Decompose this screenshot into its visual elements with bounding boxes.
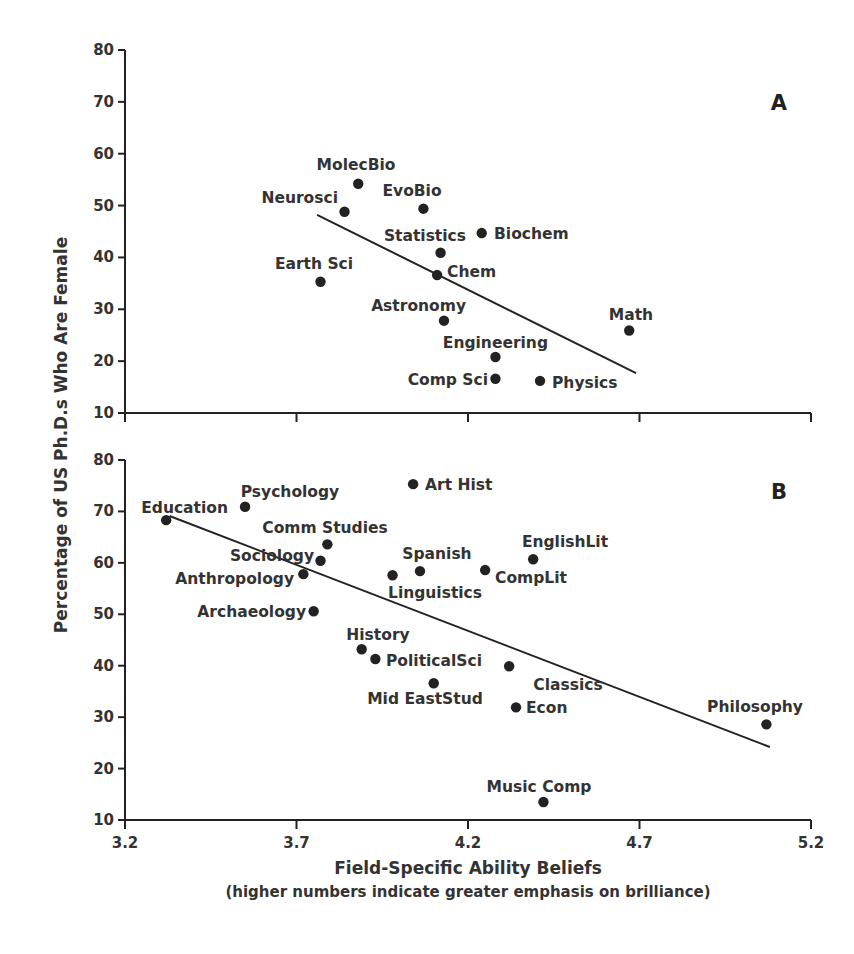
data-point	[370, 654, 380, 664]
y-tick-label: 10	[93, 404, 114, 422]
point-label: PoliticalSci	[386, 652, 482, 670]
y-tick-label: 60	[93, 554, 114, 572]
data-point	[490, 352, 500, 362]
data-point	[624, 325, 634, 335]
point-label: CompLit	[495, 569, 567, 587]
data-point	[353, 179, 363, 189]
x-tick-label: 5.2	[798, 834, 825, 852]
point-label: Archaeology	[197, 603, 306, 621]
data-point	[339, 207, 349, 217]
data-point	[477, 228, 487, 238]
point-label: Classics	[533, 676, 602, 694]
x-axis-subtitle: (higher numbers indicate greater emphasi…	[225, 883, 710, 901]
point-label: Music Comp	[487, 778, 592, 796]
data-point	[418, 203, 428, 213]
data-point	[538, 797, 548, 807]
data-point	[429, 678, 439, 688]
point-label: Comp Sci	[408, 371, 488, 389]
point-label: EnglishLit	[522, 533, 609, 551]
point-label: Comm Studies	[262, 519, 387, 537]
y-tick-label: 70	[93, 502, 114, 520]
data-point	[439, 315, 449, 325]
data-point	[535, 376, 545, 386]
x-tick-label: 4.2	[455, 834, 482, 852]
y-tick-label: 40	[93, 657, 114, 675]
data-point	[408, 479, 418, 489]
point-label: Anthropology	[175, 570, 294, 588]
y-tick-label: 20	[93, 760, 114, 778]
point-label: Biochem	[494, 225, 569, 243]
point-label: Physics	[552, 374, 617, 392]
data-point	[480, 565, 490, 575]
data-point	[490, 374, 500, 384]
point-label: Mid EastStud	[367, 690, 483, 708]
y-axis-title: Percentage of US Ph.D.s Who Are Female	[51, 237, 71, 633]
point-label: Education	[141, 499, 228, 517]
y-tick-label: 10	[93, 811, 114, 829]
point-label: Math	[609, 306, 653, 324]
y-tick-label: 30	[93, 300, 114, 318]
x-tick-label: 4.7	[626, 834, 653, 852]
point-label: Spanish	[402, 545, 471, 563]
data-point	[528, 554, 538, 564]
point-label: Neurosci	[261, 189, 338, 207]
y-tick-label: 30	[93, 708, 114, 726]
y-tick-label: 70	[93, 93, 114, 111]
point-label: Engineering	[443, 334, 548, 352]
point-label: Astronomy	[371, 297, 466, 315]
y-tick-label: 50	[93, 605, 114, 623]
scatter-chart-figure: 1020304050607080MolecBioNeurosciEvoBioBi…	[0, 0, 854, 954]
y-tick-label: 40	[93, 248, 114, 266]
point-label: MolecBio	[317, 156, 396, 174]
data-point	[240, 502, 250, 512]
y-tick-label: 80	[93, 41, 114, 59]
point-label: History	[346, 626, 409, 644]
panel-letter: A	[771, 91, 788, 115]
data-point	[435, 248, 445, 258]
point-label: Psychology	[241, 483, 339, 501]
data-point	[761, 719, 771, 729]
point-label: Econ	[526, 699, 567, 717]
data-point	[322, 539, 332, 549]
data-point	[511, 702, 521, 712]
point-label: Chem	[447, 263, 496, 281]
data-point	[315, 277, 325, 287]
data-point	[415, 566, 425, 576]
y-tick-label: 80	[93, 451, 114, 469]
point-label: EvoBio	[382, 182, 441, 200]
point-label: Statistics	[384, 227, 466, 245]
point-label: Art Hist	[425, 476, 493, 494]
data-point	[504, 661, 514, 671]
y-tick-label: 60	[93, 145, 114, 163]
data-point	[298, 569, 308, 579]
data-point	[387, 570, 397, 580]
point-label: Earth Sci	[275, 255, 353, 273]
data-point	[432, 270, 442, 280]
x-tick-label: 3.7	[283, 834, 310, 852]
panel-b: 10203040506070803.23.74.24.75.2Art HistP…	[93, 451, 824, 852]
point-label: Linguistics	[388, 584, 482, 602]
point-label: Philosophy	[707, 698, 803, 716]
y-tick-label: 50	[93, 197, 114, 215]
data-point	[356, 644, 366, 654]
x-tick-label: 3.2	[112, 834, 139, 852]
y-tick-label: 20	[93, 352, 114, 370]
data-point	[315, 556, 325, 566]
panel-a: 1020304050607080MolecBioNeurosciEvoBioBi…	[93, 41, 811, 422]
point-label: Sociology	[230, 547, 314, 565]
panel-letter: B	[771, 480, 787, 504]
x-axis-title: Field-Specific Ability Beliefs	[334, 858, 602, 878]
data-point	[308, 606, 318, 616]
